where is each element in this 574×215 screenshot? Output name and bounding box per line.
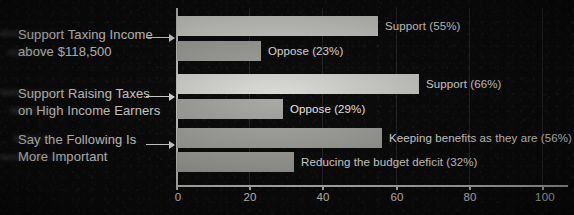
x-tick-label-40: 40	[316, 191, 329, 203]
bar-group2-support	[177, 74, 419, 94]
x-tick-80	[469, 185, 471, 190]
connector-arrow-2	[146, 92, 174, 101]
bar-label-group2-support: Support (66%)	[426, 74, 501, 94]
bar-label-group1-support: Support (55%)	[385, 16, 460, 36]
x-axis-line	[176, 185, 568, 187]
arrow-head-icon	[169, 34, 175, 42]
x-tick-60	[396, 185, 398, 190]
category-label-3-line-2: More Important	[18, 148, 136, 165]
bar-group3-budget-deficit	[177, 152, 294, 172]
arrow-head-icon	[169, 93, 175, 101]
x-tick-label-20: 20	[243, 191, 256, 203]
category-label-3: Say the Following Is More Important	[18, 131, 136, 165]
bar-chart: 0 20 40 60 80 100 Support Taxing Income …	[0, 0, 574, 215]
bar-group1-support	[177, 16, 378, 36]
x-tick-label-100: 100	[535, 191, 555, 203]
connector-arrow-3	[146, 140, 174, 149]
category-label-2-line-2: on High Income Earners	[18, 102, 160, 119]
bar-label-group2-oppose: Oppose (29%)	[290, 99, 365, 119]
x-tick-label-60: 60	[390, 191, 403, 203]
x-tick-100	[542, 185, 544, 190]
bar-group1-oppose	[177, 41, 261, 61]
bar-group2-oppose	[177, 99, 283, 119]
connector-arrow-1	[146, 33, 174, 42]
bar-label-group3-keeping-benefits: Keeping benefits as they are (56%)	[389, 128, 572, 148]
gridline-100	[542, 8, 543, 186]
arrow-head-icon	[169, 141, 175, 149]
x-tick-label-80: 80	[463, 191, 476, 203]
x-tick-40	[322, 185, 324, 190]
category-label-1: Support Taxing Income above $118,500	[18, 26, 153, 60]
category-label-2-line-1: Support Raising Taxes	[18, 85, 160, 102]
bar-label-group3-budget-deficit: Reducing the budget deficit (32%)	[301, 152, 478, 172]
category-label-1-line-1: Support Taxing Income	[18, 26, 153, 43]
x-tick-20	[249, 185, 251, 190]
x-tick-0	[176, 185, 178, 190]
bar-group3-keeping-benefits	[177, 128, 382, 148]
category-label-1-line-2: above $118,500	[18, 43, 153, 60]
category-label-3-line-1: Say the Following Is	[18, 131, 136, 148]
category-label-2: Support Raising Taxes on High Income Ear…	[18, 85, 160, 119]
x-tick-label-0: 0	[175, 191, 182, 203]
bar-label-group1-oppose: Oppose (23%)	[268, 41, 343, 61]
